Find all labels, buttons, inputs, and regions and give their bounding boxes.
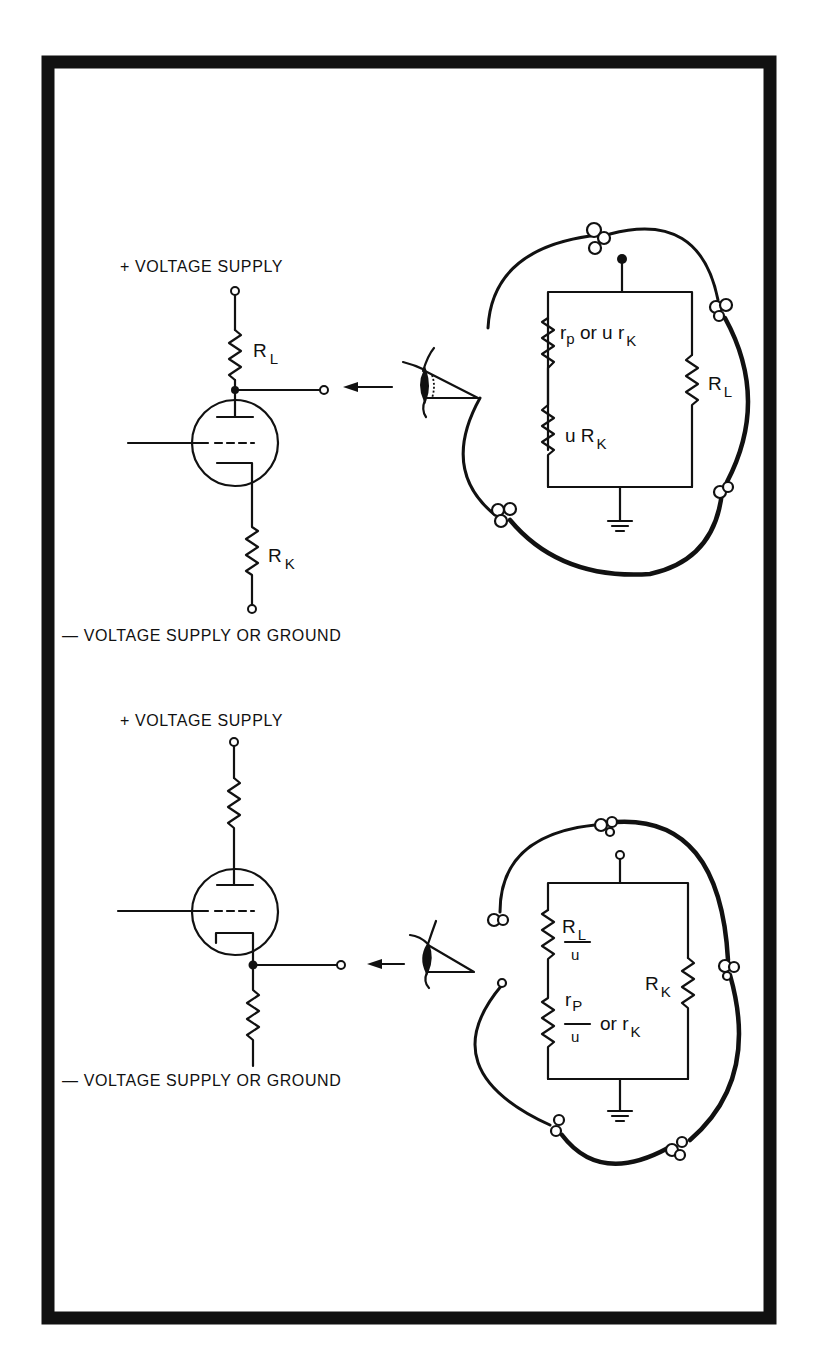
cathode-resistor-icon [246,510,258,605]
eye-icon [410,921,474,988]
top-output-terminal [320,386,328,394]
load-resistor-icon [229,330,241,380]
urk-label: u RK [565,425,607,452]
circuit-figure: + VOLTAGE SUPPLY RL RK — VOLTAGE SUPP [0,0,821,1364]
rope-knot-icon [719,960,739,980]
top-plus-supply-label: + VOLTAGE SUPPLY [120,258,283,275]
svg-text:rP: rP [565,989,582,1014]
top-schematic: + VOLTAGE SUPPLY RL RK — VOLTAGE SUPP [62,258,341,644]
bottom-schematic: + VOLTAGE SUPPLY — VOLTAGE SUPPLY OR GRO… [62,712,345,1089]
bottom-output-terminal [337,961,345,969]
rope-knot-icon [714,482,733,498]
triode-tube-icon [118,869,278,965]
svg-text:u: u [571,1028,579,1045]
svg-text:RL: RL [562,916,586,943]
rk-label: RK [268,545,295,572]
rope-knot-icon [710,299,732,321]
rl-over-u-label: RL u [562,916,590,963]
rk-eq-resistor-icon [682,958,694,1079]
cathode-resistor-icon [247,965,259,1066]
rl-eq-label: RL [708,373,732,400]
rl-over-u-resistor-icon [542,910,554,1079]
svg-text:u: u [571,946,579,963]
ground-icon [608,487,632,531]
rope-knot-icon [587,223,610,254]
rp-over-u-or-rk-label: rP u or rK [565,989,641,1045]
top-lasso-rope [463,223,748,575]
rope-knot-icon [488,914,508,926]
top-viewing-arrow [343,382,392,392]
top-ground-terminal [248,605,256,613]
load-resistor-eq-icon [686,355,698,487]
bottom-plus-supply-label: + VOLTAGE SUPPLY [120,712,283,729]
bottom-eq-output-terminal [616,851,624,859]
bottom-minus-supply-label: — VOLTAGE SUPPLY OR GROUND [62,1072,341,1089]
ground-icon [608,1079,632,1121]
rk-eq-label: RK [645,973,671,1000]
top-supply-terminal [231,287,239,295]
rope-knot-icon [595,817,617,836]
eye-icon [403,348,478,417]
rope-knot-icon [498,979,506,987]
rp-or-urk-label: rp or u rK [560,322,636,349]
plate-resistor-icon [228,778,240,869]
rl-label: RL [253,340,278,367]
top-equivalent-circuit: rp or u rK u RK RL [542,254,732,531]
triode-tube-icon [128,400,278,510]
bottom-supply-terminal [230,738,238,746]
bottom-viewing-arrow [367,959,404,969]
bottom-equivalent-circuit: RL u rP u or rK RK [542,851,694,1121]
top-minus-supply-label: — VOLTAGE SUPPLY OR GROUND [62,627,341,644]
bottom-lasso-rope [475,817,739,1164]
svg-text:or rK: or rK [600,1013,641,1040]
rope-knot-icon [666,1137,687,1160]
figure-frame [48,62,770,1318]
